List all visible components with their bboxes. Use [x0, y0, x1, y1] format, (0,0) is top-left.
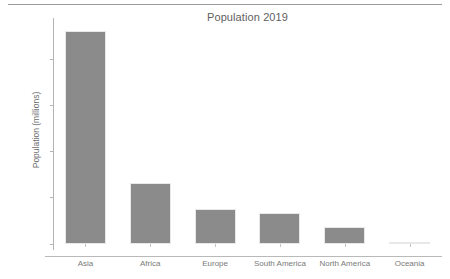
bar[interactable]: [130, 183, 171, 244]
x-tick-label: North America: [319, 259, 370, 268]
x-tick-label: South America: [254, 259, 306, 268]
bar[interactable]: [195, 209, 236, 244]
x-tick-label: Oceania: [395, 259, 425, 268]
x-tick-mark: [215, 244, 216, 247]
x-tick-label: Asia: [78, 259, 94, 268]
x-axis-spine: [45, 256, 442, 257]
x-tick-mark: [85, 244, 86, 247]
bar[interactable]: [65, 31, 106, 244]
x-tick-mark: [280, 244, 281, 247]
bar[interactable]: [259, 213, 300, 244]
x-tick-mark: [345, 244, 346, 247]
bar[interactable]: [324, 227, 365, 244]
y-axis-label: Population (millions): [31, 50, 41, 210]
x-tick-label: Europe: [202, 259, 228, 268]
chart-figure: Population 2019 Population (millions) 01…: [0, 0, 450, 279]
x-tick-mark: [410, 244, 411, 247]
x-tick-label: Africa: [140, 259, 160, 268]
bars-container: [53, 18, 442, 244]
x-tick-mark: [150, 244, 151, 247]
top-divider-rule: [8, 4, 442, 5]
